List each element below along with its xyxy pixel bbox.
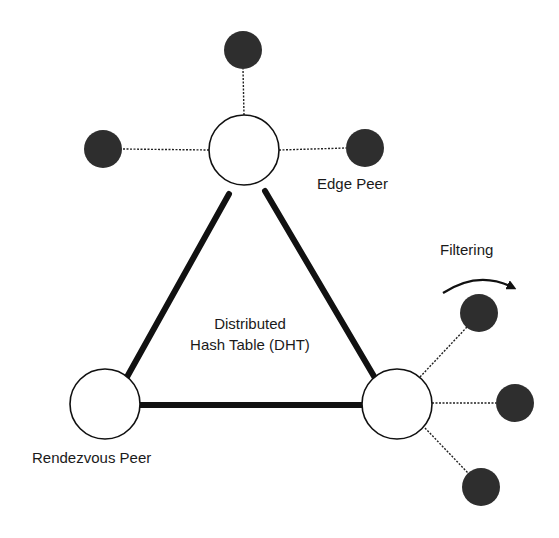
dht-label-line1: Distributed (170, 313, 330, 334)
rendezvous-peer-right (362, 369, 432, 439)
dht-label-line2: Hash Table (DHT) (170, 334, 330, 355)
edge-peer-right-lower (462, 468, 500, 506)
rendezvous-peer-label: Rendezvous Peer (32, 449, 151, 466)
link-top-right (279, 148, 346, 150)
edge-peer-top-left (84, 130, 122, 168)
rendezvous-peer-left (70, 369, 140, 439)
edge-peer-label: Edge Peer (317, 175, 388, 192)
link-right-lower (425, 428, 468, 473)
dht-label: Distributed Hash Table (DHT) (170, 313, 330, 355)
edge-peer-right-middle (496, 384, 534, 422)
rendezvous-peer-top (209, 115, 279, 185)
link-top-up (243, 69, 244, 115)
edge-peer-top-up (224, 31, 262, 69)
filtering-arrow-icon (443, 280, 512, 293)
edge-peer-top-right (346, 129, 384, 167)
edge-peer-right-upper (460, 294, 498, 332)
filtering-label: Filtering (440, 241, 493, 258)
link-right-upper (420, 327, 467, 377)
link-top-left (122, 149, 209, 150)
